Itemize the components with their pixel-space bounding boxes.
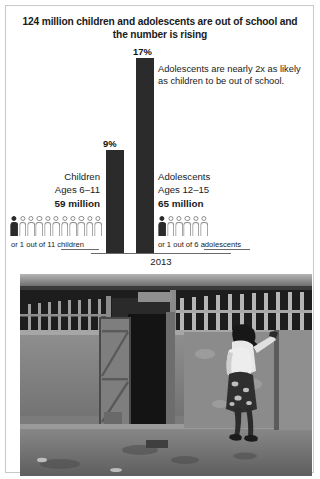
bar-value-label-children: 9%: [103, 138, 117, 149]
group-count-adolescents: 65 million: [158, 197, 268, 210]
pictogram-caption-children: or 1 out of 11 children: [11, 240, 84, 249]
school-photograph: [20, 274, 312, 476]
person-icon: [175, 216, 183, 237]
caption-underline-adolescents: [204, 249, 250, 250]
person-icon: [44, 216, 52, 237]
group-ages-children: Ages 6–11: [16, 183, 100, 196]
person-body-icon: [167, 222, 175, 236]
person-head-icon: [37, 216, 42, 221]
person-head-icon: [96, 216, 101, 221]
person-icon: [69, 216, 77, 237]
person-icon: [52, 216, 60, 237]
group-count-children: 59 million: [16, 197, 100, 210]
person-icon: [183, 216, 191, 237]
person-head-icon: [202, 216, 207, 221]
person-icon: [158, 216, 166, 237]
person-body-icon: [158, 222, 166, 236]
person-body-icon: [192, 222, 200, 236]
person-body-icon: [86, 222, 94, 236]
axis-year-label: 2013: [91, 256, 231, 267]
axis-baseline: [91, 253, 231, 254]
bar-children: [106, 150, 124, 253]
person-body-icon: [200, 222, 208, 236]
person-head-icon: [185, 216, 190, 221]
person-head-icon: [45, 216, 50, 221]
pictogram-children: [10, 216, 102, 237]
person-head-icon: [193, 216, 198, 221]
door-panel: [100, 318, 130, 436]
person-icon: [86, 216, 94, 237]
person-body-icon: [69, 222, 77, 236]
pictogram-caption-adolescents: or 1 out of 6 adolescents: [158, 240, 241, 249]
person-body-icon: [10, 222, 18, 236]
person-head-icon: [168, 216, 173, 221]
bar-chart: 17% 9% Adolescents are nearly 2x as like…: [6, 6, 313, 268]
person-head-icon: [20, 216, 25, 221]
person-body-icon: [61, 222, 69, 236]
group-name-children: Children: [16, 170, 100, 183]
infographic-frame: 124 million children and adolescents are…: [5, 5, 314, 473]
person-icon: [10, 216, 18, 237]
person-body-icon: [44, 222, 52, 236]
person-icon: [200, 216, 208, 237]
person-head-icon: [79, 216, 84, 221]
pictogram-adolescents: [158, 216, 208, 237]
person-head-icon: [87, 216, 92, 221]
group-name-adolescents: Adolescents: [158, 170, 268, 183]
group-label-children: Children Ages 6–11 59 million: [16, 170, 100, 210]
group-label-adolescents: Adolescents Ages 12–15 65 million: [158, 170, 268, 210]
callout-text: Adolescents are nearly 2x as likely as c…: [158, 63, 310, 88]
person-icon: [192, 216, 200, 237]
person-body-icon: [78, 222, 86, 236]
person-icon: [166, 216, 174, 237]
person-icon: [60, 216, 68, 237]
person-icon: [35, 216, 43, 237]
bar-value-label-adolescents: 17%: [133, 46, 152, 57]
person-head-icon: [54, 216, 59, 221]
caption-underline-children: [61, 249, 99, 250]
person-icon: [18, 216, 26, 237]
person-body-icon: [175, 222, 183, 236]
person-body-icon: [36, 222, 44, 236]
person-body-icon: [19, 222, 27, 236]
person-head-icon: [176, 216, 181, 221]
bar-adolescents: [136, 58, 154, 253]
person-icon: [77, 216, 85, 237]
person-icon: [94, 216, 102, 237]
person-head-icon: [160, 216, 165, 221]
person-head-icon: [12, 216, 17, 221]
group-ages-adolescents: Ages 12–15: [158, 183, 268, 196]
person-body-icon: [184, 222, 192, 236]
person-body-icon: [27, 222, 35, 236]
person-head-icon: [62, 216, 67, 221]
person-body-icon: [52, 222, 60, 236]
person-head-icon: [70, 216, 75, 221]
person-head-icon: [28, 216, 33, 221]
person-icon: [27, 216, 35, 237]
photo-illustration: [20, 274, 312, 476]
person-body-icon: [94, 222, 102, 236]
